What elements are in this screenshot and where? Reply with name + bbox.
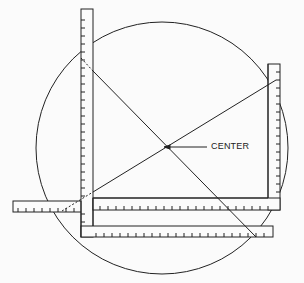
diagram-svg [0,0,304,283]
right-vertical-ruler [268,64,280,210]
bottom-ruler [81,226,273,237]
center-label: CENTER [211,141,249,151]
left-horizontal-ruler [13,201,83,212]
diagonal-1 [93,71,256,237]
left-vertical-ruler [81,9,93,237]
square-inner-edge [93,64,268,198]
diagram-canvas: CENTER [0,0,304,283]
diagonal-2 [93,80,276,192]
